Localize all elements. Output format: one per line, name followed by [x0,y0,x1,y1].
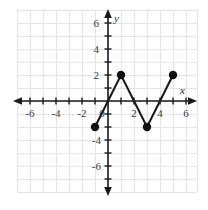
x-axis-arrow-right [188,97,197,105]
x-tick-label-6: 6 [183,107,189,119]
axis-lines [19,15,191,189]
x-tick-label-4: 4 [157,107,163,119]
y-tick-label-6: 6 [94,17,100,29]
y-tick-label-neg6: -6 [92,160,102,172]
data-point-neg1-neg2 [91,123,99,131]
data-point-5-2 [169,71,177,79]
x-tick-label-neg6: -6 [25,107,35,119]
y-tick-label-2: 2 [94,69,100,81]
coordinate-plane-chart: -6 -4 -2 0 2 4 6 6 4 2 -4 -6 y x [0,0,208,210]
y-tick-label-neg4: -4 [92,134,102,146]
y-tick-label-4: 4 [94,43,100,55]
x-tick-label-2: 2 [131,107,137,119]
x-tick-label-neg2: -2 [77,107,86,119]
data-point-1-2 [117,71,125,79]
graph-figure: -6 -4 -2 0 2 4 6 6 4 2 -4 -6 y x [0,0,208,210]
y-axis-label: y [113,12,119,24]
data-point-3-neg2 [143,123,151,131]
axis-arrowheads [13,9,197,196]
x-axis-label: x [179,84,185,96]
x-tick-label-neg4: -4 [51,107,61,119]
